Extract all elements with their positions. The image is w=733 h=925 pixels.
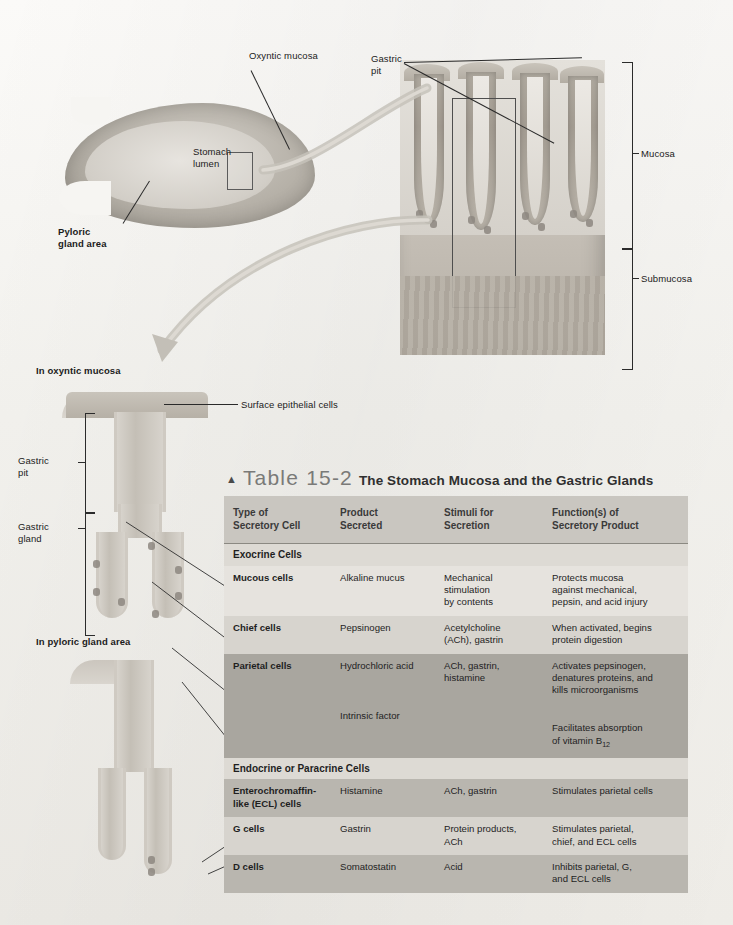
tick-gastric-pit (78, 462, 85, 463)
cell-type: Chief cells (224, 616, 331, 654)
label-surface-epithelial-cells: Surface epithelial cells (241, 399, 338, 411)
cell-function: Inhibits parietal, G, and ECL cells (543, 855, 688, 893)
tick-mucosa (632, 153, 639, 154)
label-mucosa: Mucosa (641, 148, 675, 160)
tick-submucosa (632, 278, 639, 279)
cell-type: Mucous cells (224, 566, 331, 616)
cell-product: Gastrin (331, 817, 435, 855)
table-row: G cells Gastrin Protein products, ACh St… (224, 817, 688, 855)
table-header-row: Type of Secretory Cell Product Secreted … (224, 496, 688, 544)
label-pyloric-gland-area: Pyloric gland area (58, 226, 107, 249)
table-row: Parietal cells Hydrochloric acid ACh, ga… (224, 654, 688, 704)
cell-product: Alkaline mucus (331, 566, 435, 616)
bracket-submucosa (622, 248, 633, 370)
cell-function: When activated, begins protein digestion (543, 616, 688, 654)
table-row: Enterochromaffin- like (ECL) cells Hista… (224, 779, 688, 817)
label-oxyntic-mucosa: Oxyntic mucosa (249, 50, 318, 62)
table-title-row: ▲ Table 15-2 The Stomach Mucosa and the … (224, 466, 694, 490)
cell-product: Intrinsic factor (331, 704, 435, 758)
cell-function: Protects mucosa against mechanical, peps… (543, 566, 688, 616)
cell-function: Stimulates parietal cells (543, 779, 688, 817)
column-header-product-secreted: Product Secreted (331, 496, 435, 544)
table-row: Mucous cells Alkaline mucus Mechanical s… (224, 566, 688, 616)
cell-function-text: Facilitates absorption of vitamin B (552, 722, 643, 745)
cell-stimuli: Acetylcholine (ACh), gastrin (435, 616, 543, 654)
label-gastric-gland: Gastric gland (18, 521, 49, 544)
label-stomach-lumen: Stomach lumen (193, 146, 231, 169)
stomach-mucosa-table: Type of Secretory Cell Product Secreted … (224, 496, 688, 893)
column-header-function-of-secretory-product: Function(s) of Secretory Product (543, 496, 688, 544)
cell-function: Activates pepsinogen, denatures proteins… (543, 654, 688, 704)
table-row: D cells Somatostatin Acid Inhibits parie… (224, 855, 688, 893)
cell-product: Histamine (331, 779, 435, 817)
table-section-endocrine-paracrine-cells: Endocrine or Paracrine Cells (224, 758, 688, 779)
cell-stimuli: Acid (435, 855, 543, 893)
bracket-mucosa (622, 62, 633, 250)
column-header-stimuli-for-secretion: Stimuli for Secretion (435, 496, 543, 544)
cell-stimuli (435, 704, 543, 758)
cell-type: Enterochromaffin- like (ECL) cells (224, 779, 331, 817)
cell-function: Stimulates parietal, chief, and ECL cell… (543, 817, 688, 855)
label-gastric-pit: Gastric pit (18, 455, 49, 478)
cell-product: Hydrochloric acid (331, 654, 435, 704)
section-heading-exocrine: Exocrine Cells (224, 544, 688, 566)
cell-function: Facilitates absorption of vitamin B12 (543, 704, 688, 758)
tick-gastric-gland (78, 528, 85, 529)
leader-surface-epithelial-cells (164, 404, 238, 405)
table-number: Table 15-2 (243, 466, 353, 490)
cell-function-subscript: 12 (602, 740, 610, 749)
section-heading-endocrine: Endocrine or Paracrine Cells (224, 758, 688, 779)
bracket-gastric-pit (85, 413, 95, 514)
table-caption: The Stomach Mucosa and the Gastric Gland… (359, 473, 653, 488)
cell-type: D cells (224, 855, 331, 893)
cell-type: Parietal cells (224, 654, 331, 704)
arrow-block-to-gland (110, 210, 440, 390)
label-in-oxyntic-mucosa: In oxyntic mucosa (36, 365, 121, 377)
table-15-2: ▲ Table 15-2 The Stomach Mucosa and the … (224, 466, 694, 893)
cell-stimuli: Mechanical stimulation by contents (435, 566, 543, 616)
arrow-stomach-to-block (255, 70, 435, 190)
cell-product: Somatostatin (331, 855, 435, 893)
bracket-gastric-gland (85, 512, 95, 636)
cell-type (224, 704, 331, 758)
cell-stimuli: Protein products, ACh (435, 817, 543, 855)
table-section-exocrine-cells: Exocrine Cells (224, 544, 688, 566)
cell-stimuli: ACh, gastrin (435, 779, 543, 817)
table-row: Chief cells Pepsinogen Acetylcholine (AC… (224, 616, 688, 654)
cell-product: Pepsinogen (331, 616, 435, 654)
column-header-type-of-secretory-cell: Type of Secretory Cell (224, 496, 331, 544)
table-row: Intrinsic factor Facilitates absorption … (224, 704, 688, 758)
cell-stimuli: ACh, gastrin, histamine (435, 654, 543, 704)
table-marker-triangle-icon: ▲ (226, 474, 237, 485)
label-submucosa: Submucosa (641, 273, 692, 285)
cell-type: G cells (224, 817, 331, 855)
